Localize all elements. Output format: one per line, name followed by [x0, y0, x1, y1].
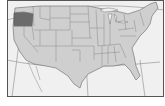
- locator-map: [0, 0, 165, 106]
- us-map-svg: [0, 0, 165, 106]
- state-oregon-highlighted: [14, 12, 33, 26]
